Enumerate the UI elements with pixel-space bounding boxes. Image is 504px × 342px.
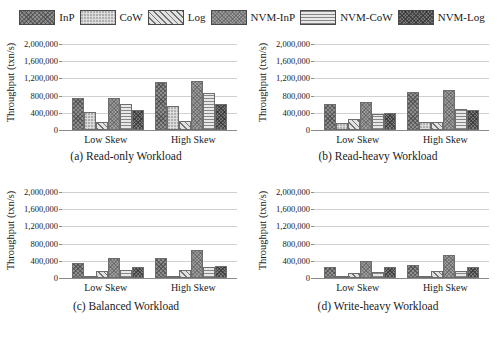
subplot-4: Throughput (txn/s)0400,000800,0001,200,0…: [252, 178, 504, 328]
bar-container: [62, 192, 237, 278]
y-tick-label: 1,200,000: [24, 222, 58, 231]
subplot-1: Throughput (txn/s)0400,000800,0001,200,0…: [0, 30, 252, 178]
y-tick-label: 1,200,000: [276, 74, 310, 83]
bar: [407, 92, 419, 130]
legend-entry-nvm-log: NVM-Log: [398, 10, 485, 25]
bar: [215, 104, 227, 130]
subplot-grid: Throughput (txn/s)0400,000800,0001,200,0…: [0, 30, 504, 342]
y-tick-label: 800,000: [282, 91, 310, 100]
bar: [348, 273, 360, 278]
y-tick-label: 1,200,000: [24, 74, 58, 83]
bar: [372, 114, 384, 130]
y-tick-label: 1,200,000: [276, 222, 310, 231]
y-tick-label: 1,600,000: [276, 57, 310, 66]
bar-group-high-skew: [155, 44, 227, 130]
x-tick-label: Low Skew: [62, 134, 150, 145]
y-tick-label: 1,600,000: [276, 205, 310, 214]
bar-container: [62, 44, 237, 130]
y-axis-label: Throughput (txn/s): [256, 30, 270, 134]
x-tick-label: High Skew: [150, 134, 238, 145]
bar-group-high-skew: [407, 192, 479, 278]
bar-group-low-skew: [324, 192, 396, 278]
bar: [336, 276, 348, 278]
y-tick-label: 800,000: [30, 91, 58, 100]
x-axis-labels: Low SkewHigh Skew: [314, 282, 489, 293]
subplot-caption: (b) Read-heavy Workload: [252, 150, 504, 162]
y-axis-label-text: Throughput (txn/s): [6, 42, 17, 122]
y-tick-label: 0: [54, 274, 58, 283]
y-tick-label: 0: [306, 274, 310, 283]
y-tick-mark: [59, 130, 62, 131]
y-tick-mark: [59, 278, 62, 279]
bar: [96, 271, 108, 278]
subplot-3: Throughput (txn/s)0400,000800,0001,200,0…: [0, 178, 252, 328]
y-tick-label: 400,000: [30, 109, 58, 118]
bar: [431, 271, 443, 278]
bar: [443, 255, 455, 278]
bar: [179, 121, 191, 130]
bar-group-low-skew: [72, 192, 144, 278]
y-tick-label: 1,600,000: [24, 205, 58, 214]
legend-entry-inp: InP: [19, 10, 74, 25]
legend-label: InP: [59, 12, 74, 23]
bar: [419, 276, 431, 278]
bar: [203, 267, 215, 278]
bar: [384, 113, 396, 130]
bar: [467, 110, 479, 130]
y-tick-label: 800,000: [282, 239, 310, 248]
legend-entry-nvm-inp: NVM-InP: [211, 10, 296, 25]
bar: [419, 122, 431, 130]
y-axis-label: Throughput (txn/s): [4, 30, 18, 134]
plot-area: 0400,000800,0001,200,0001,600,0002,000,0…: [314, 44, 489, 131]
y-tick-label: 2,000,000: [24, 40, 58, 49]
bar: [203, 93, 215, 130]
legend-label: NVM-InP: [251, 12, 296, 23]
bar: [324, 267, 336, 278]
y-tick-label: 0: [306, 126, 310, 135]
bar: [455, 109, 467, 131]
bar: [443, 90, 455, 130]
y-axis-label-text: Throughput (txn/s): [258, 42, 269, 122]
y-tick-label: 2,000,000: [276, 188, 310, 197]
bar: [167, 276, 179, 278]
bar: [84, 276, 96, 278]
subplot-caption: (d) Write-heavy Workload: [252, 300, 504, 312]
bar: [360, 102, 372, 130]
bar: [407, 265, 419, 278]
legend-swatch-nvm-inp-icon: [211, 10, 247, 25]
x-axis-labels: Low SkewHigh Skew: [62, 134, 237, 145]
legend-label: NVM-CoW: [340, 12, 393, 23]
chart-legend: InPCoWLogNVM-InPNVM-CoWNVM-Log: [0, 6, 504, 28]
y-tick-label: 2,000,000: [24, 188, 58, 197]
bar: [336, 123, 348, 130]
bar-container: [314, 44, 489, 130]
y-axis-label: Throughput (txn/s): [256, 178, 270, 282]
y-tick-label: 2,000,000: [276, 40, 310, 49]
bar-container: [314, 192, 489, 278]
legend-swatch-log-icon: [148, 10, 184, 25]
y-axis-label-text: Throughput (txn/s): [258, 190, 269, 270]
bar: [455, 271, 467, 278]
bar: [179, 270, 191, 278]
bar: [132, 110, 144, 130]
bar: [155, 82, 167, 130]
plot-area: 0400,000800,0001,200,0001,600,0002,000,0…: [314, 192, 489, 279]
legend-entry-cow: CoW: [80, 10, 143, 25]
bar: [372, 272, 384, 278]
bar: [132, 267, 144, 278]
bar-group-low-skew: [72, 44, 144, 130]
y-tick-label: 400,000: [282, 109, 310, 118]
bar: [324, 104, 336, 130]
bar: [191, 250, 203, 278]
bar: [431, 122, 443, 130]
bar: [191, 81, 203, 130]
bar: [72, 98, 84, 130]
y-axis-label-text: Throughput (txn/s): [6, 190, 17, 270]
legend-swatch-nvm-log-icon: [398, 10, 434, 25]
y-axis-label: Throughput (txn/s): [4, 178, 18, 282]
bar: [96, 122, 108, 130]
bar: [108, 98, 120, 130]
bar: [384, 267, 396, 278]
bar: [215, 266, 227, 278]
legend-label: NVM-Log: [438, 12, 485, 23]
